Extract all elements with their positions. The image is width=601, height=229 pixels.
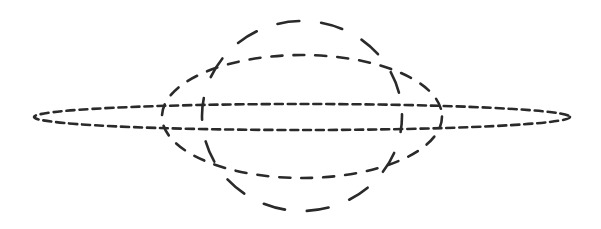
thin-horizontal-ellipse xyxy=(34,104,570,130)
tall-vertical-ellipse xyxy=(202,21,402,211)
medium-ellipse xyxy=(162,55,442,178)
nested-dashed-ellipses-diagram xyxy=(0,0,601,229)
